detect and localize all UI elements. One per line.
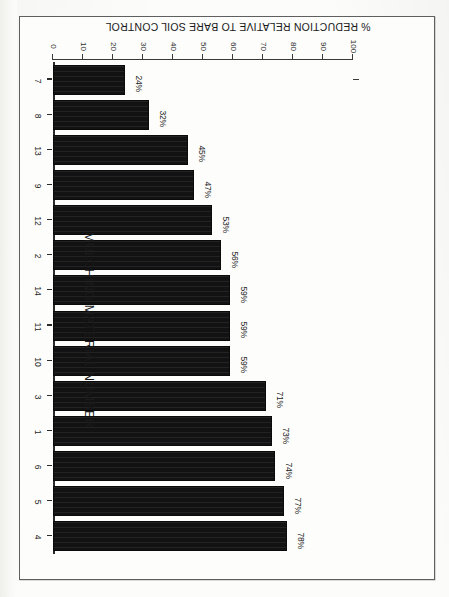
bar-chart: % REDUCTION RELATIVE TO BARE SOIL CONTRO…	[21, 18, 431, 576]
bar-row: 59%14	[53, 273, 353, 308]
bar	[53, 100, 149, 130]
bar-row: 78%4	[53, 519, 353, 554]
value-tick-label: 60	[229, 36, 238, 58]
value-tick-label: 10	[79, 36, 88, 58]
bar	[53, 486, 284, 516]
bar	[53, 346, 230, 376]
bar-value-label: 73%	[281, 427, 291, 443]
category-tick	[48, 324, 53, 325]
bar-value-label: 45%	[197, 146, 207, 162]
value-tick-label: 30	[139, 36, 148, 58]
bar	[53, 65, 125, 95]
category-tick	[48, 78, 53, 79]
category-tick-label: 6	[33, 458, 43, 476]
category-tick-label: 14	[33, 282, 43, 300]
category-tick	[48, 500, 53, 501]
category-tick-label: 1	[33, 423, 43, 441]
category-tick	[48, 114, 53, 115]
category-tick	[48, 184, 53, 185]
value-tick-label: 40	[169, 36, 178, 58]
category-tick	[48, 149, 53, 150]
bar-value-label: 71%	[275, 392, 285, 408]
bar	[53, 521, 287, 551]
bar-value-label: 53%	[221, 216, 231, 232]
category-tick-label: 10	[33, 353, 43, 371]
value-axis-ruler: 0102030405060708090100	[53, 30, 353, 60]
category-tick	[48, 430, 53, 431]
bar	[53, 240, 221, 270]
bar-row: 74%6	[53, 449, 353, 484]
category-tick-label: 12	[33, 212, 43, 230]
category-tick-label: 2	[33, 247, 43, 265]
category-tick	[48, 219, 53, 220]
value-tick-label: 20	[109, 36, 118, 58]
bar-value-label: 77%	[293, 497, 303, 513]
bar	[53, 311, 230, 341]
bar-row: 24%7	[53, 62, 353, 97]
value-tick-label: 70	[259, 36, 268, 58]
bar-row: 45%13	[53, 132, 353, 167]
bar-value-label: 59%	[239, 357, 249, 373]
value-tick-label: 100	[349, 36, 358, 58]
plot-area: % REDUCTION RELATIVE TO BARE SOIL CONTRO…	[21, 18, 431, 576]
bar-value-label: 24%	[134, 76, 144, 92]
bar-value-label: 59%	[239, 322, 249, 338]
category-tick-label: 7	[33, 72, 43, 90]
value-tick-label: 50	[199, 36, 208, 58]
category-tick-label: 3	[33, 388, 43, 406]
category-tick	[48, 535, 53, 536]
category-tick	[48, 254, 53, 255]
category-tick-label: 4	[33, 528, 43, 546]
bar	[53, 205, 212, 235]
value-tick	[353, 79, 359, 80]
bar-value-label: 32%	[158, 111, 168, 127]
bar-row: 53%12	[53, 203, 353, 238]
value-axis: % REDUCTION RELATIVE TO BARE SOIL CONTRO…	[353, 64, 431, 576]
value-axis-baseline	[53, 59, 353, 60]
category-tick	[48, 360, 53, 361]
bar	[53, 416, 272, 446]
bar-row: 56%2	[53, 238, 353, 273]
bar-row: 59%11	[53, 308, 353, 343]
bar	[53, 381, 266, 411]
value-tick-label: 0	[49, 36, 58, 58]
bar	[53, 170, 194, 200]
bar-value-label: 47%	[203, 181, 213, 197]
bar-row: 32%8	[53, 97, 353, 132]
bar-row: 47%9	[53, 167, 353, 202]
bar-row: 77%5	[53, 484, 353, 519]
category-tick-label: 9	[33, 177, 43, 195]
category-tick	[48, 465, 53, 466]
category-tick-label: 13	[33, 142, 43, 160]
category-tick-label: 8	[33, 107, 43, 125]
category-tick	[48, 395, 53, 396]
bar-value-label: 56%	[230, 251, 240, 267]
category-tick-label: 11	[33, 318, 43, 336]
bar-row: 73%1	[53, 413, 353, 448]
bar	[53, 275, 230, 305]
bar-value-label: 74%	[284, 462, 294, 478]
value-tick-label: 80	[289, 36, 298, 58]
bar-value-label: 78%	[296, 533, 306, 549]
bar	[53, 135, 188, 165]
category-tick	[48, 289, 53, 290]
bar	[53, 451, 275, 481]
bar-row: 71%3	[53, 378, 353, 413]
bar-row: 59%10	[53, 343, 353, 378]
bar-value-label: 59%	[239, 287, 249, 303]
value-tick-label: 90	[319, 36, 328, 58]
bars-container: 78%477%574%673%171%359%1059%1159%1456%25…	[53, 64, 353, 554]
page-left-edge-shadow	[0, 0, 17, 597]
category-tick-label: 5	[33, 493, 43, 511]
